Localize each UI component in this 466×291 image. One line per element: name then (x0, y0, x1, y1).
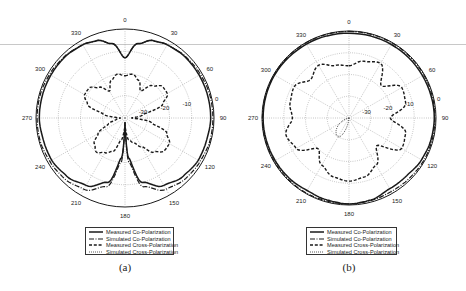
legend-label: Measured Cross-Polarization (106, 242, 178, 249)
legend-line-swatch-icon (89, 242, 103, 248)
legend-entry: Measured Co-Polarization (310, 229, 393, 236)
radial-tick-label: -10 (405, 101, 414, 107)
radial-tick-label: 0 (215, 96, 219, 102)
legend-line-swatch-icon (89, 249, 103, 255)
angle-tick-label: 120 (427, 163, 438, 169)
grid-spoke (274, 75, 349, 119)
legend-b: Measured Co-PolarizationSimulated Co-Pol… (306, 227, 397, 255)
radial-tick-label: -30 (362, 109, 371, 115)
grid-spoke (306, 43, 350, 118)
grid-spoke (125, 74, 202, 119)
angle-tick-label: 300 (261, 67, 272, 73)
angle-tick-label: 0 (347, 19, 351, 25)
panel-caption: (a) (119, 261, 131, 273)
angle-tick-label: 120 (205, 164, 216, 170)
legend-entry: Simulated Cross-Polarization (310, 249, 393, 256)
legend-line-swatch-icon (310, 242, 324, 248)
legend-entry: Measured Cross-Polarization (310, 242, 393, 249)
angle-tick-label: 210 (296, 198, 307, 204)
legend-label: Simulated Cross-Polarization (106, 249, 178, 256)
angle-tick-label: 330 (296, 32, 307, 38)
legend-label: Simulated Co-Polarization (327, 236, 392, 243)
grid-spoke (349, 118, 393, 193)
legend-label: Simulated Cross-Polarization (327, 249, 399, 256)
legend-line-swatch-icon (310, 236, 324, 242)
angle-tick-label: 0 (123, 17, 127, 23)
legend-line-swatch-icon (310, 249, 324, 255)
grid-spoke (125, 118, 202, 163)
angle-tick-label: 30 (394, 32, 401, 38)
angle-tick-label: 240 (35, 164, 46, 170)
legend-line-swatch-icon (310, 229, 324, 235)
angle-tick-label: 90 (442, 115, 449, 121)
angle-tick-label: 150 (169, 200, 180, 206)
series-dotted (336, 118, 349, 137)
legend-entry: Measured Cross-Polarization (89, 242, 170, 249)
radial-tick-label: -20 (384, 105, 393, 111)
angle-tick-label: 60 (429, 67, 436, 73)
legend-entry: Simulated Cross-Polarization (89, 249, 170, 256)
grid-spoke (81, 41, 126, 118)
series-dashed (84, 74, 169, 153)
legend-entry: Simulated Co-Polarization (310, 236, 393, 243)
legend-line-swatch-icon (89, 229, 103, 235)
polar-plot-b: 0306090120150180210240270300330-30-20-10… (248, 19, 449, 217)
grid-spoke (48, 74, 125, 119)
legend-label: Measured Co-Polarization (327, 229, 392, 236)
angle-tick-label: 240 (261, 163, 272, 169)
radial-tick-label: -30 (139, 109, 148, 115)
angle-tick-label: 30 (171, 30, 178, 36)
series-dashed (286, 61, 406, 181)
legend-line-swatch-icon (89, 236, 103, 242)
grid-spoke (349, 75, 424, 119)
legend-label: Simulated Co-Polarization (106, 236, 171, 243)
legend-label: Measured Co-Polarization (106, 229, 171, 236)
panel-caption: (b) (343, 261, 356, 273)
angle-tick-label: 180 (120, 213, 131, 219)
legend-entry: Measured Co-Polarization (89, 229, 170, 236)
polar-plot-a: 0306090120150180210240270300330-30-20-10… (22, 17, 227, 219)
grid-spoke (274, 118, 349, 162)
angle-tick-label: 270 (22, 115, 33, 121)
legend-entry: Simulated Co-Polarization (89, 236, 170, 243)
angle-tick-label: 330 (71, 30, 82, 36)
angle-tick-label: 210 (71, 200, 82, 206)
angle-tick-label: 180 (344, 211, 355, 217)
angle-tick-label: 270 (248, 115, 259, 121)
angle-tick-label: 90 (220, 115, 227, 121)
legend-label: Measured Cross-Polarization (327, 242, 399, 249)
grid-spoke (48, 118, 125, 163)
angle-tick-label: 60 (207, 66, 214, 72)
angle-tick-label: 150 (392, 198, 403, 204)
radial-tick-label: 0 (437, 96, 441, 102)
radial-tick-label: -10 (182, 101, 191, 107)
angle-tick-label: 300 (35, 66, 46, 72)
legend-a: Measured Co-PolarizationSimulated Co-Pol… (85, 227, 174, 255)
